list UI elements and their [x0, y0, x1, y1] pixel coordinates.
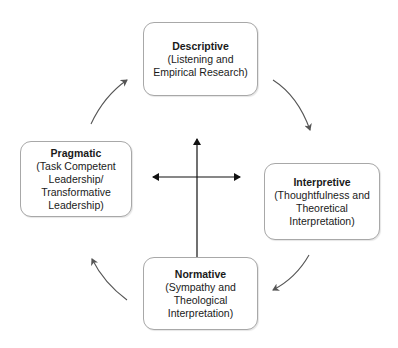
node-description: (Thoughtfulness and Theoretical Interpre… — [274, 189, 370, 228]
node-pragmatic: Pragmatic (Task Competent Leadership/ Tr… — [20, 141, 132, 217]
node-interpretive: Interpretive (Thoughtfulness and Theoret… — [264, 163, 380, 240]
center-cross-icon — [153, 139, 240, 268]
node-title: Pragmatic — [51, 147, 102, 160]
arrow-normative-to-pragmatic — [92, 259, 127, 300]
node-description: (Sympathy and Theological Interpretation… — [165, 281, 236, 320]
node-normative: Normative (Sympathy and Theological Inte… — [143, 257, 258, 330]
node-title: Descriptive — [172, 40, 229, 53]
arrow-interpretive-to-normative — [273, 255, 309, 290]
node-description: (Listening and Empirical Research) — [153, 53, 248, 79]
node-title: Normative — [175, 268, 226, 281]
arrow-descriptive-to-interpretive — [273, 80, 310, 130]
node-descriptive: Descriptive (Listening and Empirical Res… — [143, 22, 258, 96]
arrow-pragmatic-to-descriptive — [91, 80, 127, 124]
node-title: Interpretive — [293, 176, 350, 189]
node-description: (Task Competent Leadership/ Transformati… — [36, 160, 115, 212]
